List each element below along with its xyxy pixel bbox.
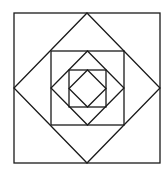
inner-diamond — [69, 70, 106, 107]
middle-diamond — [51, 51, 124, 125]
outer-diamond — [14, 13, 160, 163]
inner-square — [69, 70, 106, 107]
outer-square — [14, 13, 160, 163]
nested-squares-diagram — [0, 0, 167, 171]
middle-square — [51, 51, 124, 125]
